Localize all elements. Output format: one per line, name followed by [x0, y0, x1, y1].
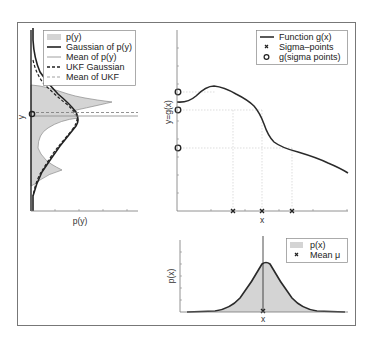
left-legend: p(y) Gaussian of p(y) Mean of p(y) UKF G… — [44, 31, 136, 86]
bottom-xlabel: x — [261, 314, 266, 324]
middle-legend: Function g(x) Sigma–points g(sigma point… — [257, 31, 348, 65]
legend-label: p(x) — [310, 240, 326, 250]
legend-label: Mean of UKF — [66, 72, 120, 82]
legend-label: Mean of p(y) — [66, 52, 117, 62]
bottom-panel: x p(x) p(x) Mean μ — [166, 236, 348, 324]
left-panel: p(y) y p(y) Gaussian of p(y) Mean of p(y… — [16, 28, 138, 226]
middle-xlabel: x — [260, 215, 265, 225]
legend-label: Function g(x) — [279, 32, 332, 42]
legend-label: Gaussian of p(y) — [66, 42, 132, 52]
bottom-legend: p(x) Mean μ — [287, 239, 348, 263]
middle-ylabel: y=g(x) — [163, 100, 173, 124]
legend-label: Mean μ — [310, 250, 340, 260]
legend-label: Sigma–points — [279, 42, 334, 52]
left-xlabel: p(y) — [73, 216, 88, 226]
legend-label: g(sigma points) — [279, 52, 341, 62]
legend-label: UKF Gaussian — [66, 62, 125, 72]
legend-label: p(y) — [66, 32, 82, 42]
g-sigma-point-marker-icon — [175, 145, 181, 151]
bottom-ylabel: p(x) — [166, 269, 176, 284]
px-density-fill — [187, 263, 345, 313]
legend-fill-swatch — [290, 242, 303, 248]
g-sigma-point-marker-icon — [175, 89, 181, 95]
function-gx-curve — [177, 86, 348, 173]
legend-fill-swatch — [47, 34, 61, 40]
guide-lines — [177, 92, 292, 211]
ukf-diagram: p(y) y p(y) Gaussian of p(y) Mean of p(y… — [0, 0, 371, 337]
g-sigma-point-marker-icon — [175, 107, 181, 113]
middle-panel: x y=g(x) Function g(x) Sigma–points g(si… — [163, 30, 348, 225]
